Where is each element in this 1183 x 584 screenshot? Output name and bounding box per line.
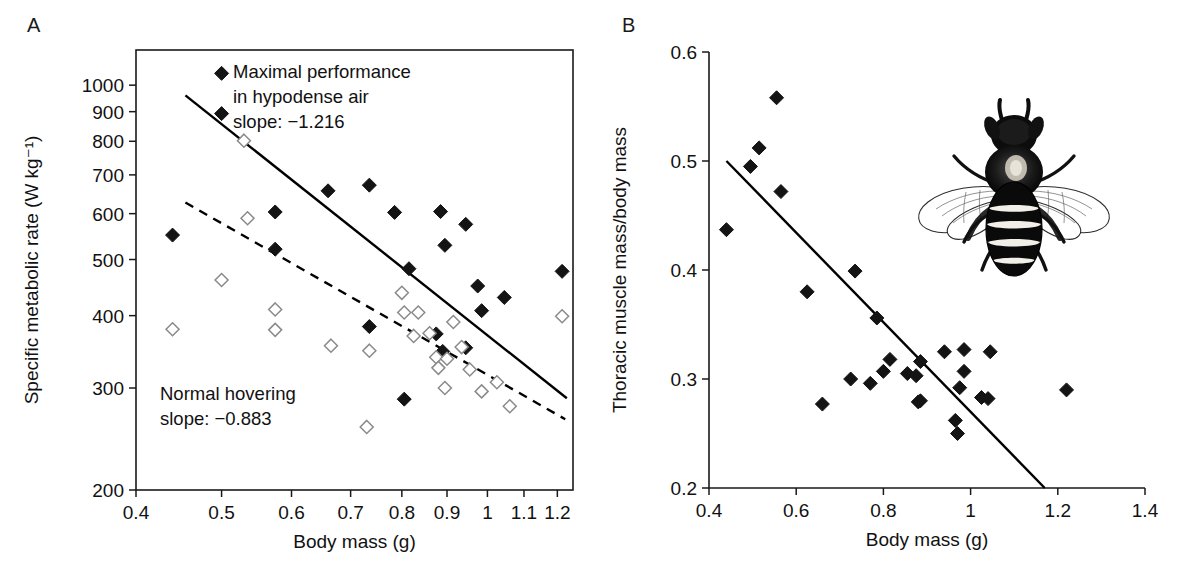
bumblebee-illustration <box>906 92 1122 288</box>
data-point <box>434 205 448 219</box>
data-point <box>752 141 766 155</box>
figure-root: A 20030040050060070080090010000.40.50.60… <box>0 0 1183 584</box>
data-point <box>719 223 733 237</box>
data-point <box>166 228 180 242</box>
data-point <box>268 205 282 219</box>
data-point <box>883 352 897 366</box>
data-point <box>800 285 814 299</box>
data-point <box>876 364 890 378</box>
data-point <box>241 212 254 225</box>
normal-hovering-note-line: Normal hovering <box>160 383 296 404</box>
data-point <box>215 66 229 80</box>
x-tick-label: 1 <box>965 500 976 521</box>
x-tick-label: 1.1 <box>511 502 537 523</box>
x-tick-label: 0.4 <box>123 502 150 523</box>
data-point <box>870 311 884 325</box>
y-tick-label: 1000 <box>82 75 124 96</box>
maximal-performance-note-line: Maximal performance <box>233 61 411 82</box>
x-tick-label: 0.8 <box>870 500 896 521</box>
x-tick-label: 0.7 <box>337 502 363 523</box>
data-point <box>863 376 877 390</box>
y-tick-label: 0.4 <box>671 260 698 281</box>
data-point <box>937 345 951 359</box>
y-tick-label: 800 <box>92 131 124 152</box>
y-tick-label: 600 <box>92 204 124 225</box>
y-tick-label: 500 <box>92 250 124 271</box>
data-point <box>844 372 858 386</box>
x-tick-label: 1.4 <box>1132 500 1159 521</box>
panel-b-x-axis-title: Body mass (g) <box>866 529 988 550</box>
y-tick-label: 0.3 <box>671 369 697 390</box>
y-tick-label: 700 <box>92 165 124 186</box>
x-tick-label: 1.2 <box>544 502 570 523</box>
y-tick-label: 400 <box>92 306 124 327</box>
data-point <box>447 316 460 329</box>
x-tick-label: 0.9 <box>434 502 460 523</box>
y-tick-label: 900 <box>92 102 124 123</box>
data-point <box>1060 383 1074 397</box>
data-point <box>268 242 282 256</box>
data-point <box>774 185 788 199</box>
maximal-performance-note-line: in hypodense air <box>233 86 369 107</box>
data-point <box>815 397 829 411</box>
data-point <box>475 385 488 398</box>
x-tick-label: 0.4 <box>696 500 723 521</box>
y-tick-label: 0.6 <box>671 42 697 63</box>
data-point <box>848 264 862 278</box>
data-point <box>983 345 997 359</box>
data-point <box>463 363 476 376</box>
y-tick-label: 0.2 <box>671 478 697 499</box>
data-point <box>555 264 569 278</box>
data-point <box>363 344 376 357</box>
x-tick-label: 0.8 <box>389 502 415 523</box>
panel-a-plot: 20030040050060070080090010000.40.50.60.7… <box>0 0 600 584</box>
panel-b-plot: 0.20.30.40.50.60.40.60.811.21.4Body mass… <box>600 0 1183 584</box>
data-point <box>402 262 416 276</box>
normal-hovering-note-line: slope: −0.883 <box>160 408 272 429</box>
panel-a: A 20030040050060070080090010000.40.50.60… <box>0 0 600 584</box>
y-tick-label: 0.5 <box>671 151 697 172</box>
data-point <box>497 290 511 304</box>
data-point <box>388 205 402 219</box>
data-point <box>360 420 373 433</box>
data-point <box>398 306 411 319</box>
data-point <box>957 343 971 357</box>
panel-b: B 0.20.30.40.50.60.40.60.811.21.4Body ma… <box>600 0 1183 584</box>
data-point <box>166 323 179 336</box>
panel-b-y-axis-title: Thoracic muscle mass/body mass <box>609 127 630 413</box>
x-tick-label: 0.5 <box>208 502 234 523</box>
data-point <box>215 107 229 121</box>
data-point <box>324 339 337 352</box>
data-point <box>471 279 485 293</box>
data-point <box>438 382 451 395</box>
x-tick-label: 1.2 <box>1045 500 1071 521</box>
maximal-performance-note-line: slope: −1.216 <box>233 111 345 132</box>
panel-a-y-axis-title: Specific metabolic rate (W kg⁻¹) <box>21 136 42 405</box>
y-tick-label: 300 <box>92 378 124 399</box>
data-point <box>951 427 965 441</box>
data-point <box>269 323 282 336</box>
x-tick-label: 1 <box>482 502 493 523</box>
data-point <box>269 303 282 316</box>
data-point <box>395 286 408 299</box>
data-point <box>770 91 784 105</box>
y-tick-label: 200 <box>92 480 124 501</box>
panel-a-x-axis-title: Body mass (g) <box>293 531 415 552</box>
data-point <box>556 310 569 323</box>
data-point <box>215 273 228 286</box>
data-point <box>397 392 411 406</box>
data-point <box>743 159 757 173</box>
x-tick-label: 0.6 <box>278 502 304 523</box>
data-point <box>953 381 967 395</box>
x-tick-label: 0.6 <box>783 500 809 521</box>
data-point <box>948 413 962 427</box>
data-point <box>321 184 335 198</box>
data-point <box>362 320 376 334</box>
data-point <box>412 306 425 319</box>
data-point <box>362 178 376 192</box>
data-point <box>475 304 489 318</box>
data-point <box>459 217 473 231</box>
data-point <box>503 400 516 413</box>
data-point <box>438 238 452 252</box>
data-point <box>957 364 971 378</box>
